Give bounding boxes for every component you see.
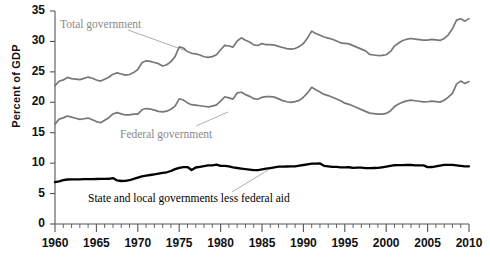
- y-tick-label: 25: [19, 64, 45, 78]
- annotation-state-and-local: State and local governments less federal…: [88, 192, 290, 204]
- chart-plot-area: [0, 0, 490, 261]
- leader-line: [196, 112, 228, 126]
- chart-container: Percent of GDP 05101520253035 1960196519…: [0, 0, 490, 261]
- annotation-total-government: Total government: [60, 18, 141, 30]
- y-axis-ticks: [50, 11, 55, 224]
- x-tick-label: 2005: [408, 236, 448, 250]
- x-tick-label: 2010: [449, 236, 489, 250]
- x-tick-label: 1970: [118, 236, 158, 250]
- y-tick-label: 10: [19, 155, 45, 169]
- x-tick-label: 1960: [35, 236, 75, 250]
- x-tick-label: 1975: [159, 236, 199, 250]
- annotation-federal-government: Federal government: [120, 128, 212, 140]
- x-tick-label: 2000: [366, 236, 406, 250]
- y-tick-label: 30: [19, 33, 45, 47]
- y-tick-label: 35: [19, 3, 45, 17]
- series-line: [55, 81, 469, 124]
- leader-line: [232, 170, 268, 192]
- x-tick-label: 1980: [201, 236, 241, 250]
- x-tick-label: 1995: [325, 236, 365, 250]
- x-tick-label: 1990: [283, 236, 323, 250]
- x-tick-label: 1985: [242, 236, 282, 250]
- x-axis-major-ticks: [55, 224, 469, 232]
- y-tick-label: 5: [19, 186, 45, 200]
- series-line: [55, 163, 469, 182]
- data-series-group: [55, 19, 469, 183]
- y-tick-label: 15: [19, 125, 45, 139]
- y-tick-label: 0: [19, 216, 45, 230]
- x-tick-label: 1965: [76, 236, 116, 250]
- leader-line: [128, 30, 192, 53]
- y-tick-label: 20: [19, 94, 45, 108]
